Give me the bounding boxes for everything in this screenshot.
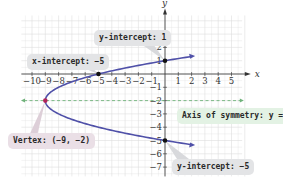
- y-intercept-top-label: y-intercept: 1: [94, 30, 171, 46]
- y-tick-label: −4: [149, 122, 162, 132]
- x-intercept-label: x-intercept: −5: [27, 54, 109, 70]
- x-tick-label: −4: [106, 76, 119, 86]
- y-tick-label: −6: [149, 149, 162, 159]
- curve-arrow-top-icon: [189, 54, 195, 59]
- arrow-right-icon: [240, 99, 244, 103]
- y-tick-label: −7: [149, 162, 162, 172]
- x-tick-label: 2: [189, 76, 194, 86]
- y-axis-label: y: [161, 0, 168, 8]
- curve-arrow-bottom-icon: [189, 142, 195, 147]
- x-axis-label: x: [255, 69, 260, 79]
- y-intercept-bottom-label: y-intercept: −5: [172, 159, 254, 175]
- x-intercept-point: [96, 72, 101, 77]
- y-intercept-1-point: [163, 58, 168, 63]
- y-tick-label: −1: [149, 82, 162, 92]
- y-intercept-2-point: [163, 138, 168, 143]
- x-tick-label: −3: [119, 76, 132, 86]
- arrow-left-icon: [21, 99, 25, 103]
- x-tick-label: 4: [215, 76, 220, 86]
- x-tick-label: −5: [92, 76, 105, 86]
- vertex-point: [43, 98, 48, 103]
- x-axis-arrow-icon: [245, 72, 251, 76]
- y-tick-label: −5: [149, 136, 162, 146]
- y-axis-arrow-icon: [163, 8, 167, 14]
- x-tick-label: −9: [39, 76, 52, 86]
- axis-of-symmetry-label: Axis of symmetry: y = −2: [177, 108, 283, 124]
- x-tick-label: 3: [202, 76, 207, 86]
- x-tick-label: 1: [176, 76, 181, 86]
- y-tick-label: −3: [149, 109, 162, 119]
- x-tick-label: −2: [132, 76, 145, 86]
- x-tick-label: 5: [229, 76, 234, 86]
- vertex-label: Vertex: (−9, −2): [8, 133, 95, 149]
